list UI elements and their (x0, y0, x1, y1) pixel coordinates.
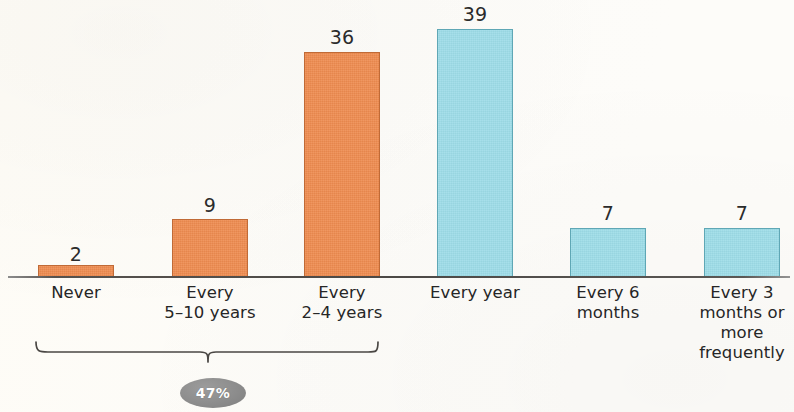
category-label-line: Every year (420, 283, 530, 303)
group-brace-icon (0, 330, 794, 380)
category-label-every-6-months: Every 6 months (553, 283, 663, 323)
category-label-line: Never (26, 283, 126, 303)
bar-texture (571, 229, 645, 277)
category-label-never: Never (26, 283, 126, 303)
x-axis-line (8, 276, 790, 278)
bar-value-label: 39 (437, 5, 513, 24)
bar-every-2-4-years[interactable] (304, 52, 380, 277)
bar-texture (173, 220, 247, 277)
bar-chart: 2 9 36 39 7 7 Never Every 5–10 years Eve… (0, 0, 794, 412)
bar-every-6-months[interactable] (570, 228, 646, 277)
bar-value-label: 36 (304, 28, 380, 47)
bar-value-label: 2 (38, 245, 114, 264)
category-label-line: 2–4 years (287, 303, 397, 323)
category-label-every-5-10-years: Every 5–10 years (155, 283, 265, 323)
category-label-line: months or (687, 303, 794, 323)
category-label-line: Every 6 (553, 283, 663, 303)
bar-value-label: 7 (704, 204, 780, 223)
bar-value-label: 9 (172, 196, 248, 215)
bar-value-label: 7 (570, 204, 646, 223)
category-label-line: Every 3 (687, 283, 794, 303)
bar-every-5-10-years[interactable] (172, 219, 248, 277)
category-label-line: Every (155, 283, 265, 303)
bar-texture (438, 30, 512, 277)
bar-texture (305, 53, 379, 277)
category-label-line: 5–10 years (155, 303, 265, 323)
bar-every-year[interactable] (437, 29, 513, 277)
category-label-line: Every (287, 283, 397, 303)
category-label-every-year: Every year (420, 283, 530, 303)
category-label-every-2-4-years: Every 2–4 years (287, 283, 397, 323)
percent-badge-label: 47% (196, 385, 230, 401)
category-label-line: months (553, 303, 663, 323)
percent-badge: 47% (180, 378, 246, 408)
bar-every-3-months[interactable] (704, 228, 780, 277)
bar-texture (705, 229, 779, 277)
